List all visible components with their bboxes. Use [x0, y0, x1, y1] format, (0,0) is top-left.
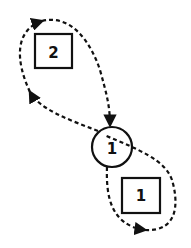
- node-circle-1: 1: [92, 127, 132, 167]
- node-box-1: 1: [122, 178, 160, 213]
- loop-diagram: 2 1 1: [0, 0, 191, 248]
- box-1-label: 1: [136, 187, 146, 205]
- circle-1-label: 1: [107, 140, 117, 158]
- upper-loop-path: [30, 92, 98, 131]
- box-2-label: 2: [48, 44, 58, 62]
- node-box-2: 2: [35, 34, 72, 68]
